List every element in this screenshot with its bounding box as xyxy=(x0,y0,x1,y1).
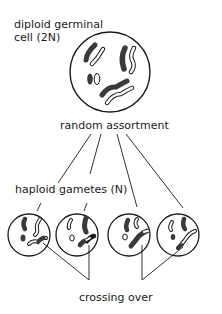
diagram-graphics xyxy=(0,0,222,314)
diploid-cell xyxy=(70,32,150,112)
assortment-lines xyxy=(37,134,183,211)
gamete-2 xyxy=(56,214,98,256)
diploid-label-line2: cell (2N) xyxy=(14,31,103,44)
diploid-cell-label: diploid germinal cell (2N) xyxy=(14,18,103,44)
random-assortment-label: random assortment xyxy=(60,119,169,132)
chromosome-dark xyxy=(87,74,93,85)
gamete-4 xyxy=(157,214,199,256)
meiosis-diagram: diploid germinal cell (2N) random assort… xyxy=(0,0,222,314)
diploid-label-line1: diploid germinal xyxy=(14,18,103,31)
crossing-over-label: crossing over xyxy=(79,291,153,304)
gamete-1 xyxy=(8,214,50,256)
chromosome-dark xyxy=(122,48,125,69)
gamete-3 xyxy=(108,214,150,256)
haploid-gametes-label: haploid gametes (N) xyxy=(15,183,127,196)
